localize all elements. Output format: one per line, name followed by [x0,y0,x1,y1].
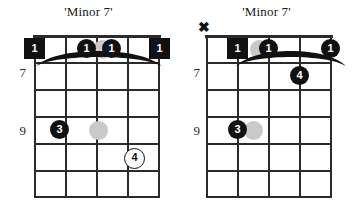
fret-line [34,170,160,172]
chord-title-right: 'Minor 7' [178,4,355,20]
finger-dot[interactable]: 1 [321,39,340,58]
fret-line [34,196,160,198]
fret-line [34,116,160,118]
fret-number-label: 9 [186,123,200,139]
nut-line [33,35,161,38]
finger-dot[interactable]: 1 [77,39,96,58]
root-marker[interactable]: 1 [149,38,170,59]
chord-title-left: 'Minor 7' [0,4,177,20]
optional-finger-dot[interactable]: 4 [124,148,145,169]
mute-x-marker: ✖ [198,20,210,34]
ghost-dot [89,121,108,140]
fret-number-label: 7 [12,65,26,81]
fret-number-label: 7 [186,65,200,81]
fret-line [206,89,332,91]
finger-dot[interactable]: 4 [290,66,309,85]
chord-chart-stage: 'Minor 7' 7 9 1 1 1 1 3 [0,0,355,214]
fret-line [34,89,160,91]
root-marker[interactable]: 1 [227,38,248,59]
chord-diagram-right: 'Minor 7' ✖ 7 9 1 1 1 4 3 [178,0,355,214]
finger-dot[interactable]: 1 [259,39,278,58]
fret-line [206,143,332,145]
fret-line [206,196,332,198]
fret-line [206,116,332,118]
root-marker[interactable]: 1 [24,38,45,59]
finger-dot[interactable]: 3 [50,120,69,139]
barre-curve [28,40,168,70]
finger-dot[interactable]: 3 [228,120,247,139]
fret-number-label: 9 [12,123,26,139]
fret-line [34,143,160,145]
chord-diagram-left: 'Minor 7' 7 9 1 1 1 1 3 [0,0,177,214]
nut-line [205,35,333,38]
fret-line [206,170,332,172]
finger-dot[interactable]: 1 [102,39,121,58]
